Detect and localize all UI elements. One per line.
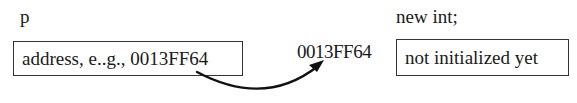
arrow-curve — [197, 66, 318, 89]
pointer-arrow — [0, 0, 577, 103]
